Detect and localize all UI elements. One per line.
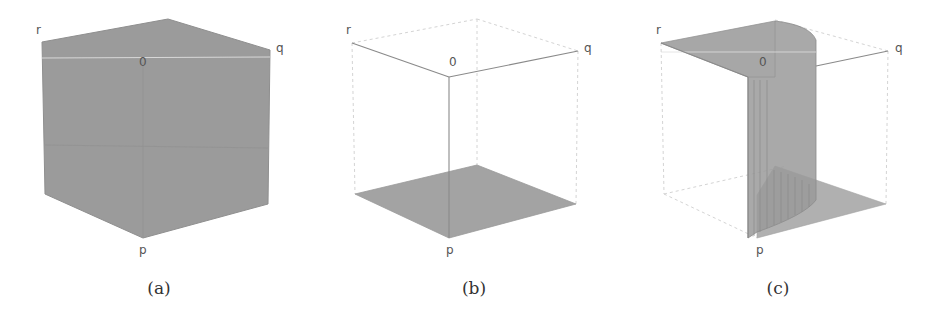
axis-label-q: q [276, 42, 284, 54]
axis-label-p: p [446, 244, 454, 256]
top-face-fill [661, 21, 775, 77]
panel-c: r q 0 p (c) [620, 0, 934, 324]
caption-b: (b) [462, 280, 486, 297]
axis-label-r: r [346, 24, 351, 36]
axis-label-q: q [895, 42, 903, 54]
step-surface-cube-diagram [620, 0, 934, 324]
axis-label-r: r [36, 24, 41, 36]
bottom-face-cube-diagram [310, 0, 620, 324]
solid-cube-diagram [0, 0, 310, 324]
bottom-face-fill [355, 165, 576, 238]
cube-solid-fill [42, 19, 270, 238]
caption-c: (c) [767, 280, 790, 297]
axis-label-p: p [139, 244, 147, 256]
axis-label-origin: 0 [139, 56, 147, 68]
panel-b: r q 0 p (b) [310, 0, 620, 324]
axis-label-r: r [656, 24, 661, 36]
axis-label-origin: 0 [449, 56, 457, 68]
panel-a: r q 0 p (a) [0, 0, 310, 324]
axis-label-origin: 0 [759, 56, 767, 68]
caption-a: (a) [147, 280, 170, 297]
axis-label-p: p [756, 244, 764, 256]
axis-label-q: q [584, 42, 592, 54]
